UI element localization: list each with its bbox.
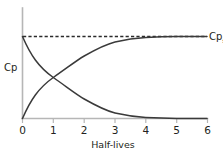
steady-state-label-subscript: ss <box>222 37 223 45</box>
x-tick-label-4: 4 <box>142 124 149 136</box>
x-tick-label-6: 6 <box>204 124 211 136</box>
x-tick-label-3: 3 <box>112 124 119 136</box>
svg-text:Cpss: Cpss <box>209 31 223 45</box>
elimination-curve <box>23 37 208 119</box>
x-tick-label-1: 1 <box>50 124 57 136</box>
x-axis-title: Half-lives <box>91 139 135 150</box>
accumulation-curve <box>23 37 208 119</box>
x-tick-label-5: 5 <box>173 124 180 136</box>
half-lives-chart: 0 1 2 3 4 5 6 Cp Half-lives Cpss <box>0 0 223 152</box>
x-tick-label-0: 0 <box>19 124 26 136</box>
steady-state-label-text: Cp <box>209 31 222 42</box>
steady-state-label: Cpss <box>209 31 223 45</box>
y-axis-label: Cp <box>4 62 17 73</box>
figure-container: 0 1 2 3 4 5 6 Cp Half-lives Cpss <box>0 0 223 152</box>
x-tick-label-2: 2 <box>81 124 88 136</box>
